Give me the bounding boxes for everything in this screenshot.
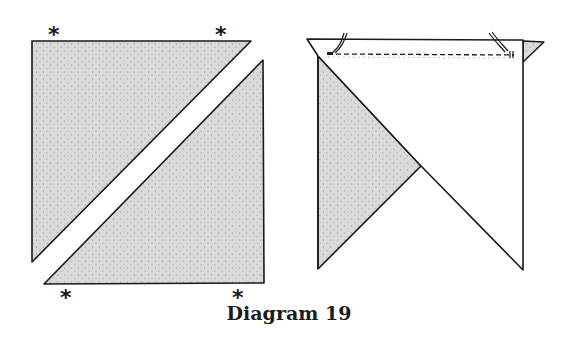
diagram-canvas bbox=[0, 0, 568, 339]
asterisk-mark-top-right: * bbox=[215, 24, 227, 46]
stitched-triangles bbox=[307, 32, 544, 270]
shaded-tip-right bbox=[523, 41, 544, 62]
left-square-halves bbox=[32, 41, 264, 284]
asterisk-mark-top-left: * bbox=[48, 24, 60, 46]
diagram-caption: Diagram 19 bbox=[0, 302, 568, 324]
